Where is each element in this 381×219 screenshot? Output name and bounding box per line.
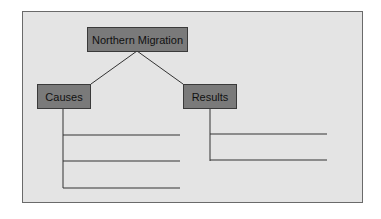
connector-lines (0, 0, 381, 219)
root-node: Northern Migration (87, 27, 188, 52)
root-node-label: Northern Migration (92, 34, 183, 46)
results-node-label: Results (192, 91, 229, 103)
results-node: Results (183, 84, 237, 109)
causes-node: Causes (37, 84, 91, 109)
causes-node-label: Causes (45, 91, 82, 103)
